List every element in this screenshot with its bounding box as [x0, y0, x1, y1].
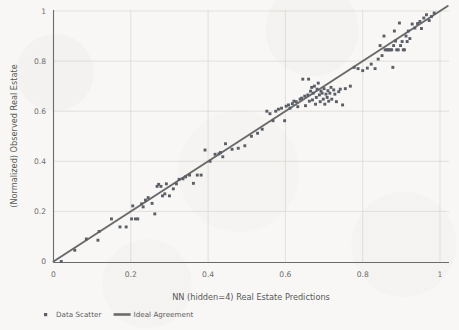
x-tick-label: 0.2 — [125, 270, 137, 279]
scatter-plot-figure: 00.20.40.60.81 00.20.40.60.81 NN (hidden… — [0, 0, 459, 330]
y-tick-label: 0 — [41, 257, 46, 266]
x-tick-label: 0.6 — [279, 270, 291, 279]
y-tick-label: 0.2 — [34, 207, 46, 216]
ideal-agreement-line — [54, 6, 448, 262]
x-tick-label: 1 — [438, 270, 443, 279]
plot-canvas: 00.20.40.60.81 00.20.40.60.81 NN (hidden… — [0, 0, 459, 330]
chart-legend: Data ScatterIdeal Agreement — [44, 310, 193, 319]
x-tick-label: 0.4 — [202, 270, 214, 279]
y-axis-title: (Normalized) Observed Real Estate — [9, 64, 19, 208]
y-tick-label: 0.8 — [34, 57, 46, 66]
y-tick-label: 1 — [41, 7, 46, 16]
legend-item-label: Ideal Agreement — [134, 310, 194, 319]
x-tick-labels: 00.20.40.60.81 — [51, 270, 443, 279]
x-tick-label: 0.8 — [357, 270, 369, 279]
y-tick-label: 0.6 — [34, 107, 46, 116]
legend-item-label: Data Scatter — [56, 310, 101, 319]
y-tick-labels: 00.20.40.60.81 — [34, 7, 46, 267]
x-tick-label: 0 — [51, 270, 56, 279]
y-tick-label: 0.4 — [34, 157, 46, 166]
x-axis-title: NN (hidden=4) Real Estate Predictions — [172, 292, 330, 302]
legend-marker-square — [44, 313, 47, 316]
